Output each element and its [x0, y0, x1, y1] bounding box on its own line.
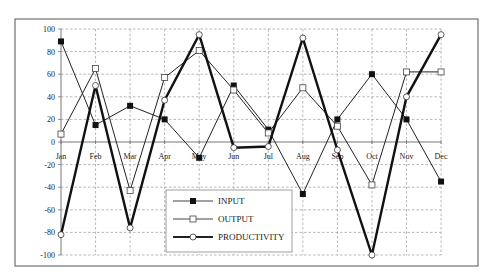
y-tick-label: 40 [47, 93, 55, 102]
data-point [231, 145, 237, 151]
x-tick-label: Aug [296, 152, 310, 161]
data-point [438, 69, 444, 75]
legend-label-output: OUTPUT [218, 214, 254, 224]
open-square-icon [190, 216, 196, 222]
data-point [162, 116, 168, 122]
data-point [369, 182, 375, 188]
legend: INPUT OUTPUT PRODUCTIVITY [166, 190, 292, 252]
data-point [231, 87, 237, 93]
data-point [334, 116, 340, 122]
data-point [58, 38, 64, 44]
data-point [404, 94, 410, 100]
data-point [162, 75, 168, 81]
data-point [334, 123, 340, 129]
data-point [438, 179, 444, 185]
data-point [196, 155, 202, 161]
data-point [196, 47, 202, 53]
data-point [404, 69, 410, 75]
data-point [334, 147, 340, 153]
data-point [438, 32, 444, 38]
data-point [369, 252, 375, 258]
data-point [58, 131, 64, 137]
data-point [300, 191, 306, 197]
data-point [93, 66, 99, 72]
x-tick-label: Oct [366, 152, 378, 161]
data-point [93, 122, 99, 128]
y-tick-label: 20 [47, 115, 55, 124]
data-point [369, 71, 375, 77]
x-tick-label: Apr [158, 152, 171, 161]
y-tick-label: -20 [44, 161, 55, 170]
data-point [127, 225, 133, 231]
x-tick-label: Dec [435, 152, 448, 161]
data-point [265, 144, 271, 150]
y-tick-label: 80 [47, 48, 55, 57]
y-tick-label: 100 [43, 25, 55, 34]
data-point [93, 83, 99, 89]
y-tick-label: -60 [44, 206, 55, 215]
data-point [300, 35, 306, 41]
filled-square-icon [190, 198, 196, 204]
data-point [265, 130, 271, 136]
legend-label-input: INPUT [218, 196, 245, 206]
x-tick-label: Mar [123, 152, 137, 161]
data-point [58, 232, 64, 238]
y-tick-label: -40 [44, 183, 55, 192]
data-point [196, 32, 202, 38]
legend-label-productivity: PRODUCTIVITY [218, 232, 285, 242]
y-tick-label: -100 [40, 251, 55, 260]
open-circle-icon [190, 234, 196, 240]
y-tick-label: 60 [47, 70, 55, 79]
data-point [404, 116, 410, 122]
data-point [127, 103, 133, 109]
x-tick-label: Feb [90, 152, 102, 161]
x-tick-label: Nov [400, 152, 414, 161]
data-point [300, 85, 306, 91]
line-chart: 100806040200-20-40-60-80-100 JanFebMarAp… [0, 0, 492, 274]
y-tick-label: 0 [51, 138, 55, 147]
y-tick-label: -80 [44, 228, 55, 237]
x-tick-label: Jun [228, 152, 239, 161]
data-point [127, 188, 133, 194]
x-tick-label: Jul [264, 152, 274, 161]
data-point [162, 97, 168, 103]
